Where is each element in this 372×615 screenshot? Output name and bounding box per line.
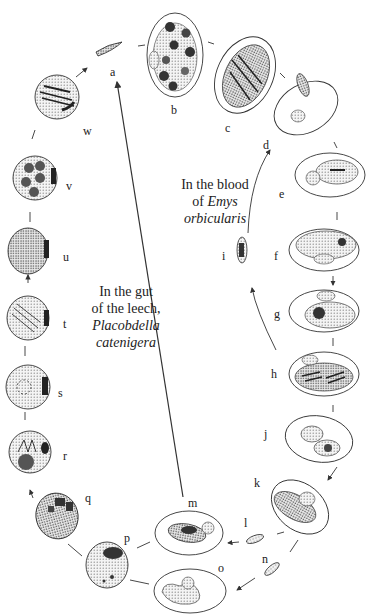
stage-t-cell: [7, 296, 49, 340]
stage-w-cell: [35, 75, 79, 119]
stage-a-sporozoite: [96, 42, 122, 56]
stage-label-r: r: [63, 450, 67, 462]
caption-blood-genus: Emys: [207, 194, 237, 209]
stage-d-cell: [265, 70, 348, 146]
stage-label-o: o: [218, 562, 224, 574]
caption-blood-line1: In the blood: [155, 176, 275, 193]
stage-label-i: i: [222, 250, 225, 262]
caption-blood-line3: orbicularis: [155, 210, 275, 227]
stage-h-cell: [289, 352, 359, 396]
stage-label-n: n: [262, 553, 268, 565]
stage-label-p: p: [124, 532, 130, 544]
stage-o-cell: [154, 569, 226, 613]
caption-gut-genus: Placobdella: [92, 318, 160, 333]
stage-v-cell: [13, 156, 57, 200]
caption-gut-species: catenigera: [96, 335, 156, 350]
stage-label-g: g: [274, 308, 280, 320]
caption-gut-line1: In the gut: [74, 283, 178, 300]
caption-blood-prefix: of: [192, 194, 207, 209]
stage-s-cell: [6, 365, 50, 409]
caption-blood-species: orbicularis: [184, 211, 246, 226]
caption-gut-line3: Placobdella: [74, 317, 178, 334]
stage-label-w: w: [83, 125, 92, 137]
stage-m-cell: [155, 511, 223, 555]
stage-label-h: h: [271, 368, 277, 380]
stage-label-k: k: [254, 477, 260, 489]
stage-r-cell: [9, 431, 51, 473]
stage-i-cell: [237, 237, 247, 263]
stage-c-cell: [203, 27, 288, 123]
stage-label-t: t: [63, 318, 66, 330]
caption-gut-line2: of the leech,: [74, 300, 178, 317]
stage-label-d: d: [263, 139, 269, 151]
stage-f-cell: [289, 229, 359, 271]
stage-label-l: l: [244, 517, 247, 529]
stage-k-cell: [261, 469, 340, 545]
stage-p-cell: [86, 542, 128, 588]
stage-g-cell: [289, 290, 359, 332]
stage-label-f: f: [274, 250, 278, 262]
stage-e-cell: [295, 153, 365, 197]
stage-label-m: m: [188, 497, 197, 509]
stage-label-c: c: [225, 122, 230, 134]
stage-label-e: e: [279, 188, 284, 200]
stage-label-u: u: [63, 251, 69, 263]
stage-q-cell: [31, 488, 83, 543]
caption-blood-line2: of Emys: [155, 193, 275, 210]
stage-label-j: j: [264, 428, 267, 440]
stage-label-q: q: [85, 492, 91, 504]
stage-b-cell: [147, 13, 203, 97]
stage-label-s: s: [58, 387, 63, 399]
stage-label-a: a: [110, 66, 115, 78]
caption-gut: In the gut of the leech, Placobdella cat…: [74, 283, 178, 351]
stage-u-cell: [8, 228, 49, 274]
stage-label-b: b: [171, 104, 177, 116]
stage-j-cell: [282, 410, 357, 467]
life-cycle-diagram: [0, 0, 372, 615]
stage-label-v: v: [66, 180, 72, 192]
caption-gut-line4: catenigera: [74, 334, 178, 351]
stage-l-cell: [245, 533, 264, 546]
caption-blood: In the blood of Emys orbicularis: [155, 176, 275, 227]
